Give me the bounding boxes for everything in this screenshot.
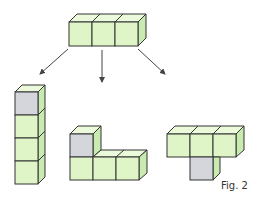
source-cube-row [69,14,146,46]
l-shape [70,126,147,180]
tower-shape [15,85,45,184]
arrow-left [40,49,68,74]
arrow-right [138,49,165,74]
figure-caption: Fig. 2 [221,180,248,191]
t-shape [167,126,244,180]
arrows [40,49,165,82]
cube-diagram [0,0,255,200]
